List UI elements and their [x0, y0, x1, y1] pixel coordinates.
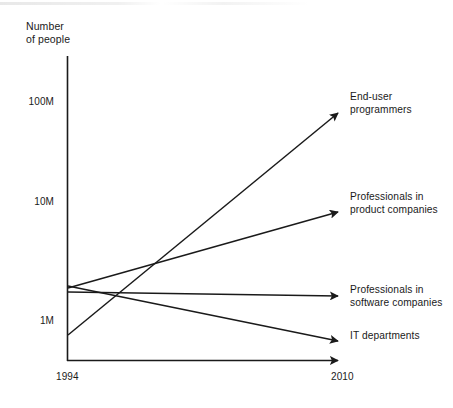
chart-figure: Number of people 100M 10M 1M 1994 2010 E…	[0, 0, 453, 408]
series-label-it-departments: IT departments	[350, 330, 420, 343]
series-label-end-user-programmers: End-user programmers	[350, 91, 412, 116]
x-tick-label-1994: 1994	[56, 371, 79, 382]
series-label-professionals-product-companies: Professionals in product companies	[350, 191, 438, 216]
y-tick-label-100m: 100M	[14, 96, 54, 107]
y-tick-label-1m: 1M	[14, 315, 54, 326]
y-tick-label-10m: 10M	[14, 196, 54, 207]
series-label-professionals-software-companies: Professionals in software companies	[350, 284, 442, 309]
y-axis-title: Number of people	[26, 20, 70, 46]
scan-artifact	[0, 2, 310, 5]
x-tick-label-2010: 2010	[331, 371, 354, 382]
